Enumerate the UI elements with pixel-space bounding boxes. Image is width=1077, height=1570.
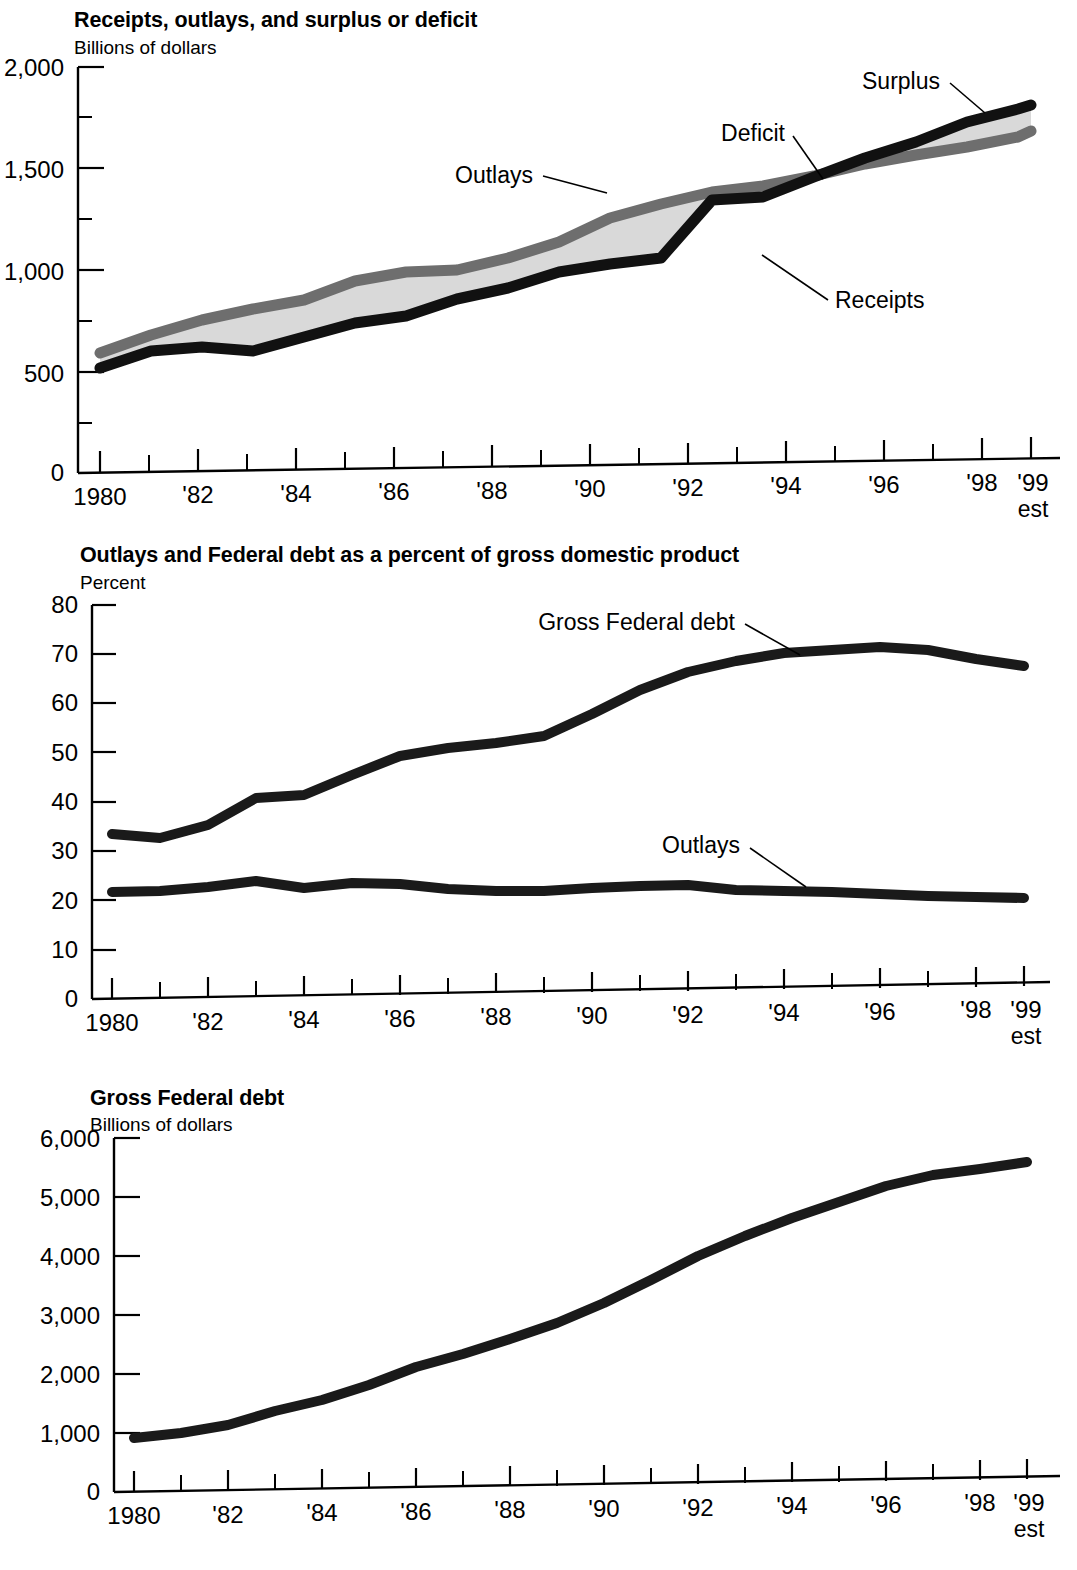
chart-1-label-surplus: Surplus bbox=[862, 68, 940, 94]
chart-1-xtick-90: '90 bbox=[574, 475, 605, 502]
chart-2-leader-outlays bbox=[750, 848, 806, 887]
chart-3-xtick-92: '92 bbox=[682, 1494, 713, 1521]
chart-2-xtick-84: '84 bbox=[288, 1006, 319, 1033]
chart-3-xtick-84: '84 bbox=[306, 1499, 337, 1526]
chart-1-xtick-96: '96 bbox=[868, 471, 899, 498]
chart-3-xtick-96: '96 bbox=[870, 1491, 901, 1518]
chart-1-leader-outlays bbox=[543, 176, 607, 193]
chart-3-ytick-2000: 2,000 bbox=[40, 1361, 100, 1388]
chart-1-xtick-86: '86 bbox=[378, 478, 409, 505]
chart-1-xtick-82: '82 bbox=[182, 481, 213, 508]
chart-1-xtick-99: '99 bbox=[1017, 469, 1048, 496]
chart-2-x-axis-line bbox=[92, 982, 1050, 999]
chart-1-xtick-92: '92 bbox=[672, 474, 703, 501]
chart-3-xtick-98: '98 bbox=[964, 1489, 995, 1516]
chart-1-xtick-88: '88 bbox=[476, 477, 507, 504]
chart-2-ytick-20: 20 bbox=[51, 887, 78, 914]
chart-2-ytick-0: 0 bbox=[65, 985, 78, 1012]
chart-3-y-ticks bbox=[114, 1138, 140, 1433]
chart-3-xtick-86: '86 bbox=[400, 1498, 431, 1525]
chart-2-xtick-99: '99 bbox=[1010, 996, 1041, 1023]
figure-page: Receipts, outlays, and surplus or defici… bbox=[0, 0, 1077, 1570]
chart-1-xtick-est-note: est bbox=[1018, 496, 1049, 520]
chart-3-xtick-est-note: est bbox=[1014, 1516, 1045, 1542]
chart-1-label-deficit: Deficit bbox=[721, 120, 786, 146]
chart-2-xtick-88: '88 bbox=[480, 1003, 511, 1030]
chart-1-ytick-2000: 2,000 bbox=[4, 54, 64, 81]
chart-2-gross-debt-line bbox=[112, 647, 1024, 838]
chart-3-xtick-90: '90 bbox=[588, 1495, 619, 1522]
chart-2-ytick-70: 70 bbox=[51, 640, 78, 667]
chart-2-xtick-96: '96 bbox=[864, 998, 895, 1025]
chart-1-ytick-0: 0 bbox=[51, 459, 64, 486]
chart-1-xtick-1980: 1980 bbox=[73, 483, 126, 510]
chart-2-ytick-40: 40 bbox=[51, 788, 78, 815]
chart-2-ytick-50: 50 bbox=[51, 739, 78, 766]
chart-3-ytick-5000: 5,000 bbox=[40, 1184, 100, 1211]
chart-2-ytick-60: 60 bbox=[51, 689, 78, 716]
chart-2-xtick-94: '94 bbox=[768, 999, 799, 1026]
chart-2-ytick-10: 10 bbox=[51, 936, 78, 963]
chart-2-label-gross-debt: Gross Federal debt bbox=[538, 609, 735, 635]
chart-2-outlays-line bbox=[112, 881, 1024, 898]
chart-1-x-axis-line bbox=[78, 458, 1060, 473]
chart-panel-gross-federal-debt: Gross Federal debt Billions of dollars 6… bbox=[0, 1080, 1077, 1570]
chart-1-leader-surplus bbox=[950, 83, 985, 113]
chart-2-plot: 80 70 60 50 40 30 20 10 0 bbox=[0, 520, 1077, 1080]
chart-3-ytick-0: 0 bbox=[87, 1478, 100, 1505]
chart-2-xtick-1980: 1980 bbox=[85, 1009, 138, 1036]
chart-3-x-axis-line bbox=[114, 1476, 1060, 1492]
chart-3-xtick-82: '82 bbox=[212, 1501, 243, 1528]
chart-2-xtick-92: '92 bbox=[672, 1001, 703, 1028]
chart-panel-gdp-percent: Outlays and Federal debt as a percent of… bbox=[0, 520, 1077, 1080]
chart-3-x-ticks bbox=[134, 1459, 1027, 1491]
chart-2-ytick-30: 30 bbox=[51, 837, 78, 864]
chart-2-xtick-98: '98 bbox=[960, 996, 991, 1023]
chart-3-ytick-1000: 1,000 bbox=[40, 1420, 100, 1447]
chart-2-label-outlays: Outlays bbox=[662, 832, 740, 858]
chart-1-xtick-94: '94 bbox=[770, 472, 801, 499]
chart-2-ytick-80: 80 bbox=[51, 591, 78, 618]
chart-1-ytick-500: 500 bbox=[24, 360, 64, 387]
chart-1-leader-receipts bbox=[762, 255, 828, 300]
chart-3-ytick-6000: 6,000 bbox=[40, 1125, 100, 1152]
chart-3-debt-line bbox=[134, 1162, 1027, 1438]
chart-1-label-receipts: Receipts bbox=[835, 287, 924, 313]
chart-1-ytick-1000: 1,000 bbox=[4, 258, 64, 285]
chart-3-ytick-3000: 3,000 bbox=[40, 1302, 100, 1329]
chart-3-xtick-99: '99 bbox=[1013, 1489, 1044, 1516]
chart-panel-receipts-outlays: Receipts, outlays, and surplus or defici… bbox=[0, 0, 1077, 520]
chart-2-x-ticks bbox=[112, 966, 1024, 998]
chart-1-xtick-84: '84 bbox=[280, 480, 311, 507]
chart-3-xtick-94: '94 bbox=[776, 1492, 807, 1519]
chart-1-plot: 2,000 1,500 1,000 500 0 bbox=[0, 0, 1077, 520]
chart-1-ytick-1500: 1,500 bbox=[4, 156, 64, 183]
chart-3-xtick-88: '88 bbox=[494, 1496, 525, 1523]
chart-2-y-ticks bbox=[92, 605, 116, 950]
chart-3-ytick-4000: 4,000 bbox=[40, 1243, 100, 1270]
chart-2-xtick-86: '86 bbox=[384, 1005, 415, 1032]
chart-2-xtick-est-note: est bbox=[1011, 1023, 1042, 1049]
chart-3-xtick-1980: 1980 bbox=[107, 1502, 160, 1529]
chart-1-xtick-98: '98 bbox=[966, 469, 997, 496]
chart-2-xtick-90: '90 bbox=[576, 1002, 607, 1029]
chart-1-label-outlays: Outlays bbox=[455, 162, 533, 188]
chart-2-xtick-82: '82 bbox=[192, 1008, 223, 1035]
chart-3-plot: 6,000 5,000 4,000 3,000 2,000 1,000 0 bbox=[0, 1080, 1077, 1570]
